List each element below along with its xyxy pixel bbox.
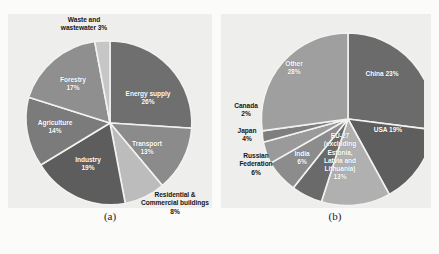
pie-b-label-china: China 23% <box>351 70 413 78</box>
pie-b-label-usa: USA 19% <box>361 126 415 134</box>
pie-b-label-japan: Japan 4% <box>225 127 269 144</box>
pie-chart-panel-a: Energy supply 26% Transport 13% Resident… <box>8 14 212 208</box>
pie-a-label-forestry: Forestry 17% <box>44 76 102 93</box>
figure-two-pie-charts: Energy supply 26% Transport 13% Resident… <box>0 0 439 254</box>
panel-b-caption: (b) <box>305 210 365 222</box>
pie-b-slice-other <box>261 33 348 131</box>
pie-b-label-india: India 6% <box>285 150 319 167</box>
pie-b-slice-china <box>348 33 424 130</box>
pie-b-chart-area: China 23% USA 19% EU-27 (excluding Eston… <box>221 14 431 208</box>
panel-a-caption: (a) <box>80 210 140 222</box>
pie-b-label-canada: Canada 2% <box>221 102 271 119</box>
pie-a-label-industry: Industry 19% <box>60 156 116 173</box>
pie-a-label-waste: Waste and wastewater 3% <box>38 16 130 33</box>
pie-b-label-russia: Russian Federation 6% <box>225 152 287 177</box>
pie-a-label-transport: Transport 13% <box>118 140 176 157</box>
pie-chart-panel-b: China 23% USA 19% EU-27 (excluding Eston… <box>221 14 431 208</box>
pie-a-chart-area: Energy supply 26% Transport 13% Resident… <box>8 14 212 208</box>
pie-a-label-residential: Residential & Commercial buildings 8% <box>134 191 216 216</box>
pie-a-label-agriculture: Agriculture 14% <box>22 119 88 136</box>
pie-b-label-eu27: EU-27 (excluding Estonia, Latvia and Lit… <box>313 132 367 182</box>
pie-b-label-other: Other 28% <box>269 60 319 77</box>
pie-b-svg <box>228 30 424 210</box>
pie-a-label-energy-supply: Energy supply 26% <box>110 90 186 107</box>
pie-a-slice-energy-supply <box>110 41 192 128</box>
